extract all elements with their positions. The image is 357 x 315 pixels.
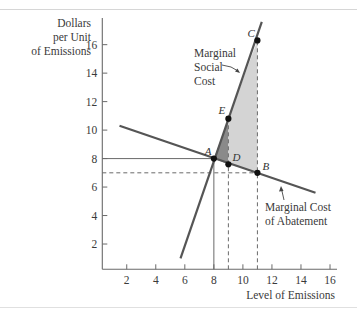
point-label-e: E bbox=[217, 104, 225, 116]
x-tick-label-4: 4 bbox=[153, 274, 159, 286]
y-tick-label-12: 12 bbox=[86, 96, 98, 108]
mca-label-line-1: Marginal Cost bbox=[265, 201, 332, 214]
chart: 246810121416246810121416 AECDB Dollars p… bbox=[0, 0, 357, 315]
point-label-c: C bbox=[247, 27, 255, 39]
msc-label-line-3: Cost bbox=[194, 75, 216, 87]
msc-label-line-2: Social bbox=[194, 61, 223, 73]
x-tick-label-10: 10 bbox=[237, 274, 249, 286]
y-axis-label-line-2: per Unit bbox=[53, 31, 92, 44]
msc-annotation-arrow bbox=[222, 65, 238, 71]
marginal-cost-of-abatement-curve bbox=[120, 126, 316, 193]
point-label-d: D bbox=[231, 151, 240, 163]
mca-label-line-2: of Abatement bbox=[265, 215, 328, 227]
x-tick-label-16: 16 bbox=[324, 274, 336, 286]
point-label-b: B bbox=[262, 160, 269, 172]
point-label-a: A bbox=[204, 145, 212, 157]
x-tick-label-2: 2 bbox=[124, 274, 130, 286]
x-tick-label-8: 8 bbox=[211, 274, 217, 286]
y-tick-label-14: 14 bbox=[86, 67, 98, 79]
y-tick-label-8: 8 bbox=[92, 153, 98, 165]
x-tick-label-12: 12 bbox=[266, 274, 278, 286]
y-axis-label-line-3: of Emissions bbox=[31, 45, 91, 57]
y-axis-label-line-1: Dollars bbox=[57, 17, 91, 29]
point-a bbox=[211, 155, 217, 161]
point-c bbox=[254, 37, 260, 43]
x-tick-label-14: 14 bbox=[295, 274, 307, 286]
point-d bbox=[225, 161, 231, 167]
point-e bbox=[225, 116, 231, 122]
y-tick-label-10: 10 bbox=[86, 124, 98, 136]
x-axis-label: Level of Emissions bbox=[246, 289, 335, 301]
mca-arrowhead-icon bbox=[279, 186, 284, 192]
point-b bbox=[254, 170, 260, 176]
msc-label-line-1: Marginal bbox=[194, 47, 236, 60]
y-tick-label-2: 2 bbox=[92, 238, 98, 250]
y-tick-label-6: 6 bbox=[92, 181, 98, 193]
x-tick-label-6: 6 bbox=[182, 274, 188, 286]
y-tick-label-4: 4 bbox=[92, 210, 98, 222]
